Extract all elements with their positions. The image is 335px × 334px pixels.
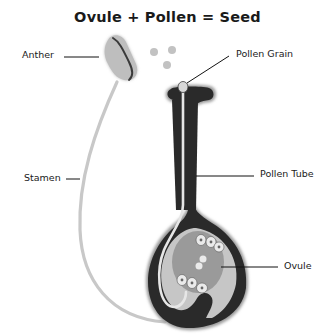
pollen-grain-icon — [178, 82, 188, 93]
label-ovule: Ovule — [284, 260, 312, 271]
anther-icon — [105, 35, 138, 80]
pollen-grain-leader — [187, 56, 229, 83]
pollen-grains-icon — [150, 46, 176, 69]
label-anther: Anther — [22, 49, 54, 60]
label-pollen-tube: Pollen Tube — [260, 168, 314, 179]
label-stamen: Stamen — [24, 172, 61, 183]
label-pollen-grain: Pollen Grain — [236, 48, 293, 59]
